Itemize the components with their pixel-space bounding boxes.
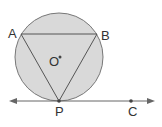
point-p (57, 99, 61, 103)
label-p: P (55, 105, 64, 118)
label-c: C (128, 105, 137, 118)
label-b: B (101, 29, 110, 42)
left-arrow-icon (9, 98, 17, 104)
label-o: O (49, 55, 59, 68)
label-a: A (8, 27, 17, 40)
right-arrow-icon (147, 98, 155, 104)
geometry-figure: A B O P C (0, 0, 162, 127)
diagram-canvas (0, 0, 162, 127)
point-c (129, 99, 133, 103)
